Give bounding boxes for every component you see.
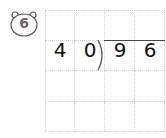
grid-cell: [105, 71, 135, 102]
grid-cell: [75, 71, 105, 102]
grid-cell: [45, 71, 75, 102]
divisor-digit: 4: [45, 35, 75, 65]
division-vinculum: [104, 40, 165, 41]
problem-number: 6: [9, 15, 39, 31]
grid-cell: [135, 71, 165, 102]
problem-number-badge: 6: [9, 10, 39, 37]
grid-cell: [45, 102, 75, 133]
grid-cell: [135, 102, 165, 133]
division-bracket-icon: [96, 38, 106, 72]
grid-cell: [75, 102, 105, 133]
grid-cell: [105, 102, 135, 133]
